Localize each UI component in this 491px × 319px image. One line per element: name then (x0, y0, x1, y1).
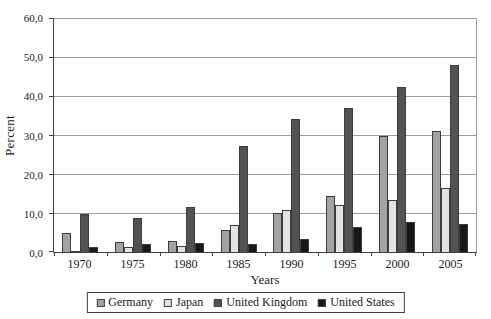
bar-germany-1970 (62, 233, 71, 252)
bar-japan-1985 (230, 225, 239, 252)
y-axis-tick-label: 40,0 (24, 89, 43, 103)
bar-united-states-1980 (195, 243, 204, 252)
bar-germany-1995 (326, 196, 335, 252)
x-axis-title: Years (53, 272, 477, 288)
bar-germany-1980 (168, 241, 177, 252)
y-axis-tick-labels: 0,010,020,030,040,050,060,0 (0, 18, 47, 253)
y-axis-tick-label: 60,0 (24, 11, 43, 25)
y-axis-tick-mark (49, 96, 53, 97)
legend-swatch-japan (164, 299, 172, 307)
legend-swatch-germany (96, 299, 104, 307)
bar-united-states-1995 (353, 227, 362, 252)
x-axis-tick-label-1995: 1995 (318, 257, 371, 272)
bar-group-1970 (54, 18, 107, 252)
y-axis-tick-mark (49, 251, 53, 252)
legend-item-japan: Japan (164, 295, 203, 310)
x-axis-tick-label-1980: 1980 (159, 257, 212, 272)
legend: GermanyJapanUnited KingdomUnited States (86, 292, 404, 313)
y-axis-tick-label: 50,0 (24, 50, 43, 64)
bar-united-kingdom-2000 (397, 87, 406, 252)
legend-swatch-united-states (318, 299, 326, 307)
y-axis-tick-mark (49, 18, 53, 19)
bar-germany-2005 (432, 131, 441, 252)
y-axis-tick-label: 30,0 (24, 129, 43, 143)
legend-swatch-united-kingdom (214, 299, 222, 307)
bar-united-states-1970 (89, 247, 98, 252)
x-axis-tick-label-1985: 1985 (212, 257, 265, 272)
bar-united-kingdom-1970 (80, 214, 89, 252)
legend-item-united-kingdom: United Kingdom (214, 295, 307, 310)
x-axis-tick-mark (371, 253, 372, 256)
bar-united-states-2005 (459, 224, 468, 252)
bar-japan-1980 (177, 246, 186, 252)
legend-label-germany: Germany (108, 295, 153, 310)
bar-united-states-2000 (406, 222, 415, 252)
y-axis-tick-mark (49, 213, 53, 214)
bar-united-kingdom-1975 (133, 218, 142, 252)
bar-united-kingdom-1995 (344, 108, 353, 252)
legend-label-united-kingdom: United Kingdom (226, 295, 307, 310)
y-axis-tick-mark (49, 135, 53, 136)
bar-germany-1975 (115, 242, 124, 252)
bar-united-kingdom-1990 (291, 119, 300, 252)
bar-united-kingdom-1980 (186, 207, 195, 252)
bar-united-states-1990 (300, 239, 309, 252)
x-axis-tick-label-2000: 2000 (371, 257, 424, 272)
bar-japan-2005 (441, 188, 450, 252)
x-axis-tick-mark (318, 253, 319, 256)
legend-item-united-states: United States (318, 295, 394, 310)
bar-japan-2000 (388, 200, 397, 252)
x-axis-tick-label-2005: 2005 (424, 257, 477, 272)
y-axis-tick-mark (49, 174, 53, 175)
y-axis-tick-mark (49, 57, 53, 58)
y-axis-tick-label: 0,0 (29, 246, 43, 260)
legend-item-germany: Germany (96, 295, 153, 310)
bars-layer (54, 18, 476, 252)
bar-group-1980 (160, 18, 213, 252)
plot-area (53, 18, 477, 253)
bar-group-1990 (265, 18, 318, 252)
x-axis-tick-mark (265, 253, 266, 256)
x-axis-tick-mark (212, 253, 213, 256)
bar-group-1985 (212, 18, 265, 252)
bar-japan-1970 (71, 251, 80, 252)
bar-united-kingdom-2005 (450, 65, 459, 252)
y-axis-tick-label: 10,0 (24, 207, 43, 221)
x-axis-tick-mark (54, 253, 55, 256)
bar-united-kingdom-1985 (239, 146, 248, 252)
bar-japan-1975 (124, 247, 133, 252)
bar-united-states-1975 (142, 244, 151, 252)
bar-group-2005 (423, 18, 476, 252)
x-axis-tick-label-1970: 1970 (53, 257, 106, 272)
bar-germany-1990 (273, 213, 282, 252)
bar-japan-1990 (282, 210, 291, 252)
x-axis-tick-labels: 19701975198019851990199520002005 (53, 257, 477, 272)
x-axis-tick-mark (475, 253, 476, 256)
x-axis-tick-mark (107, 253, 108, 256)
y-axis-tick-label: 20,0 (24, 168, 43, 182)
bar-united-states-1985 (248, 244, 257, 252)
bar-group-1975 (107, 18, 160, 252)
x-axis-tick-mark (160, 253, 161, 256)
bar-chart-figure: Percent 0,010,020,030,040,050,060,0 1970… (0, 0, 491, 319)
bar-group-1995 (318, 18, 371, 252)
bar-japan-1995 (335, 205, 344, 252)
bar-group-2000 (371, 18, 424, 252)
x-axis-tick-label-1975: 1975 (106, 257, 159, 272)
x-axis-tick-mark (423, 253, 424, 256)
bar-germany-2000 (379, 136, 388, 252)
bar-germany-1985 (221, 230, 230, 252)
x-axis-tick-label-1990: 1990 (265, 257, 318, 272)
legend-label-japan: Japan (176, 295, 203, 310)
legend-label-united-states: United States (330, 295, 394, 310)
